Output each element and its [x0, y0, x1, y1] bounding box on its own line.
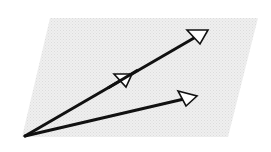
- vector-diagram: [0, 0, 271, 152]
- diagram-canvas: [0, 0, 271, 152]
- plane-parallelogram: [22, 18, 258, 137]
